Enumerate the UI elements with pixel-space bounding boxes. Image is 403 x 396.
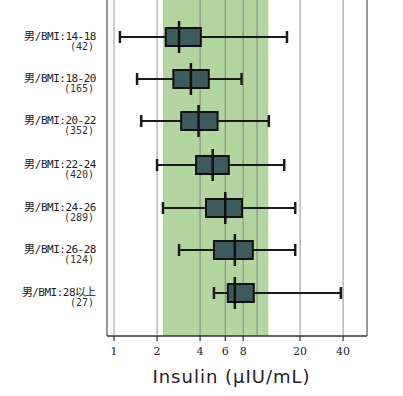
sample-size-label: (165) bbox=[64, 83, 94, 94]
x-tick-label: 8 bbox=[240, 345, 247, 358]
iqr-box bbox=[228, 284, 254, 302]
x-tick-label: 2 bbox=[154, 345, 161, 358]
iqr-box bbox=[214, 241, 253, 259]
sample-size-label: (27) bbox=[70, 297, 94, 308]
x-tick-label: 6 bbox=[222, 345, 229, 358]
x-tick-label: 20 bbox=[293, 345, 307, 358]
x-tick-label: 4 bbox=[197, 345, 204, 358]
x-axis-label: Insulin (μIU/mL) bbox=[0, 366, 403, 387]
sample-size-label: (124) bbox=[64, 254, 94, 265]
sample-size-label: (352) bbox=[64, 125, 94, 136]
sample-size-label: (289) bbox=[64, 212, 94, 223]
sample-size-label: (42) bbox=[70, 41, 94, 52]
sample-size-label: (420) bbox=[64, 169, 94, 180]
iqr-box bbox=[206, 199, 242, 217]
iqr-box bbox=[166, 28, 201, 46]
x-tick-label: 40 bbox=[336, 345, 350, 358]
x-tick-label: 1 bbox=[111, 345, 118, 358]
